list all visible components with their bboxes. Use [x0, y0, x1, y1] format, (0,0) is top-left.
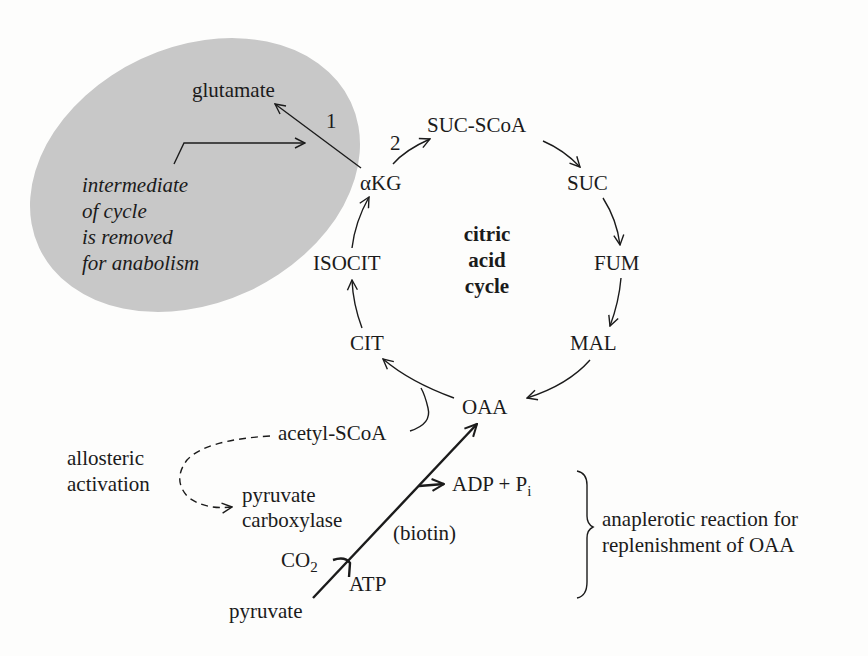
arrow-oaa-to-cit — [383, 359, 454, 398]
intermediate-isocit: ISOCIT — [313, 251, 381, 275]
co2-label: CO2 — [281, 548, 318, 575]
enzyme-label-line-2: carboxylase — [242, 508, 342, 532]
adp-release-arrow — [419, 484, 444, 486]
allosteric-label-line-1: allosteric — [67, 446, 144, 470]
intermediate-cit: CIT — [350, 331, 384, 355]
brace-label-line-1: anaplerotic reaction for — [602, 507, 798, 531]
center-label-line-1: citric — [464, 222, 511, 246]
allosteric-label-line-2: activation — [67, 472, 150, 496]
arrow-fum-to-mal — [610, 278, 621, 326]
arrow-isocit-to-akg — [352, 197, 369, 248]
intermediate-fum: FUM — [594, 251, 640, 275]
removal-note-line-2: of cycle — [82, 199, 147, 223]
removal-note-line-1: intermediate — [82, 173, 188, 197]
enzyme-label-line-1: pyruvate — [242, 483, 315, 507]
atp-label: ATP — [349, 572, 386, 596]
removal-note-line-3: is removed — [82, 225, 173, 249]
acetyl-scoa-label: acetyl-SCoA — [278, 421, 387, 445]
glutamate-label: glutamate — [192, 78, 275, 102]
cofactor-biotin-label: (biotin) — [393, 521, 456, 545]
pyruvate-label: pyruvate — [229, 599, 302, 623]
removal-note-line-4: for anabolism — [82, 251, 199, 275]
step-1-label: 1 — [326, 109, 337, 133]
step-2-label: 2 — [390, 131, 401, 155]
brace-label-line-2: replenishment of OAA — [602, 533, 795, 557]
intermediate-akg: αKG — [360, 171, 401, 195]
products-label: ADP + Pi — [452, 472, 531, 499]
intermediate-suc-scoa: SUC-SCoA — [427, 113, 527, 137]
arrow-mal-to-oaa — [527, 360, 590, 398]
anabolism-removal-region — [0, 0, 405, 364]
arrow-suc-to-fum — [603, 198, 620, 245]
acetyl-scoa-entry-curve — [410, 388, 429, 431]
center-label-line-3: cycle — [465, 274, 509, 298]
arrow-sucscoa-to-suc — [543, 141, 580, 167]
intermediate-suc: SUC — [567, 171, 608, 195]
intermediate-oaa: OAA — [462, 395, 508, 419]
center-label-line-2: acid — [468, 248, 506, 272]
intermediate-mal: MAL — [570, 331, 617, 355]
citric-acid-cycle-diagram: glutamate 1 intermediate of cycle is rem… — [0, 0, 868, 656]
anaplerotic-brace — [577, 471, 593, 598]
arrow-cit-to-isocit — [352, 280, 362, 328]
